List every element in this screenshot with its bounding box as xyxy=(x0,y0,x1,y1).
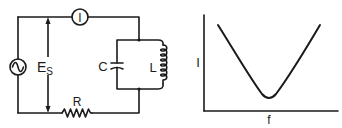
resonance-curve xyxy=(218,25,320,98)
sine-wave-icon xyxy=(13,63,24,72)
capacitor-label: C xyxy=(98,59,107,74)
ammeter: I xyxy=(72,9,88,25)
y-axis-label: I xyxy=(196,55,200,70)
inductor-label: L xyxy=(149,60,156,75)
source-voltage-arrow: ES xyxy=(34,17,62,113)
ac-source xyxy=(10,59,26,75)
current-vs-frequency-graph: I f xyxy=(196,15,338,127)
resonance-diagram: I ES R C xyxy=(0,0,342,128)
x-axis-label: f xyxy=(267,113,271,127)
tank-circuit: C L xyxy=(98,38,166,90)
resistor-label: R xyxy=(73,95,82,109)
arrow-down-icon xyxy=(46,106,51,113)
capacitor-branch-wire xyxy=(117,40,139,89)
resistor-icon xyxy=(62,109,92,117)
inductor-coil-icon xyxy=(161,45,167,84)
parallel-resonant-circuit: I ES R C xyxy=(10,9,167,117)
ammeter-label: I xyxy=(78,11,81,25)
arrow-up-icon xyxy=(46,17,51,24)
